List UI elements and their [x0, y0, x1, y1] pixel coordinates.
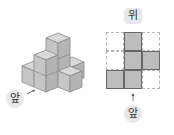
- top-view-grid: [106, 32, 160, 89]
- front-label-right: 앞: [124, 105, 142, 123]
- grid-cell: [106, 51, 124, 70]
- grid-cell: [106, 32, 124, 51]
- grid-cell-filled: [124, 32, 142, 51]
- grid-cell: [142, 32, 160, 51]
- grid-cell-filled: [124, 70, 142, 89]
- grid-cell: [142, 70, 160, 89]
- grid-cell-filled: [142, 51, 160, 70]
- grid-cell-filled: [106, 70, 124, 89]
- cube-stack-figure: [0, 0, 100, 135]
- top-label: 위: [124, 8, 142, 24]
- front-label-left: 앞: [6, 90, 24, 108]
- grid-cell-filled: [124, 51, 142, 70]
